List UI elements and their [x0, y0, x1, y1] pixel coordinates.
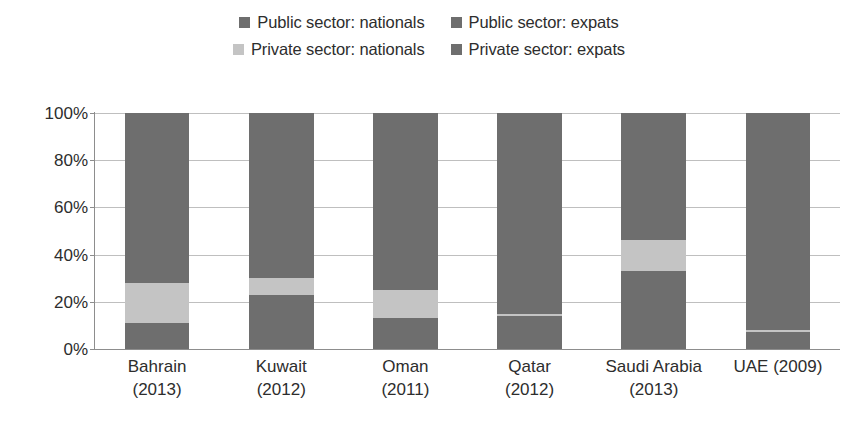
bar-segment[interactable]	[621, 113, 686, 240]
bar-group[interactable]	[373, 113, 438, 349]
y-tick-label: 100%	[45, 105, 88, 122]
bar-group[interactable]	[621, 113, 686, 349]
y-tick-label: 0%	[63, 341, 88, 358]
bar-stack	[373, 113, 438, 349]
bar-segment[interactable]	[125, 283, 190, 323]
y-tick-mark	[90, 349, 95, 350]
bar-segment[interactable]	[746, 113, 811, 330]
bar-stack	[249, 113, 314, 349]
bar-segment[interactable]	[497, 316, 562, 349]
bar-group[interactable]	[497, 113, 562, 349]
y-tick-label: 40%	[54, 246, 88, 263]
bar-stack	[746, 113, 811, 349]
bar-segment[interactable]	[125, 113, 190, 283]
bar-group[interactable]	[125, 113, 190, 349]
bar-segment[interactable]	[621, 240, 686, 271]
legend-item-private-expats[interactable]: Private sector: expats	[451, 41, 625, 57]
y-tick-label: 60%	[54, 199, 88, 216]
y-tick-label: 20%	[54, 293, 88, 310]
legend-item-public-nationals[interactable]: Public sector: nationals	[239, 14, 424, 30]
legend-label-private-expats: Private sector: expats	[469, 41, 625, 57]
legend-item-private-nationals[interactable]: Private sector: nationals	[233, 41, 425, 57]
legend-label-public-nationals: Public sector: nationals	[257, 14, 424, 30]
bar-segment[interactable]	[373, 290, 438, 318]
legend-label-private-nationals: Private sector: nationals	[251, 41, 425, 57]
x-tick-label: Bahrain(2013)	[95, 355, 219, 401]
x-tick-label: Qatar(2012)	[468, 355, 592, 401]
x-tick-label: Oman(2011)	[343, 355, 467, 401]
x-tick-label: UAE (2009)	[716, 355, 840, 378]
bar-group[interactable]	[746, 113, 811, 349]
bar-segment[interactable]	[746, 330, 811, 332]
legend-swatch-icon-public-nationals	[239, 17, 250, 28]
plot-area: 100%80%60%40%20%0% Bahrain(2013)Kuwait(2…	[0, 100, 858, 360]
legend-swatch-icon-public-expats	[451, 17, 462, 28]
legend-label-public-expats: Public sector: expats	[469, 14, 619, 30]
stacked-bar-chart: Public sector: nationals Public sector: …	[0, 0, 858, 430]
bar-segment[interactable]	[125, 323, 190, 349]
y-axis: 100%80%60%40%20%0%	[18, 100, 88, 350]
legend-row-2: Private sector: nationals Private sector…	[233, 41, 625, 57]
y-tick-label: 80%	[54, 152, 88, 169]
legend-swatch-icon-private-expats	[451, 44, 462, 55]
bar-segment[interactable]	[497, 314, 562, 316]
bar-segment[interactable]	[249, 295, 314, 349]
bar-stack	[621, 113, 686, 349]
bar-group[interactable]	[249, 113, 314, 349]
bar-segment[interactable]	[249, 113, 314, 278]
legend-swatch-icon-private-nationals	[233, 44, 244, 55]
x-tick-label: Kuwait(2012)	[219, 355, 343, 401]
axes-and-grid	[95, 113, 840, 349]
bars-layer	[95, 113, 840, 349]
x-axis: Bahrain(2013)Kuwait(2012)Oman(2011)Qatar…	[95, 355, 840, 425]
bar-segment[interactable]	[746, 332, 811, 349]
bar-segment[interactable]	[621, 271, 686, 349]
bar-stack	[497, 113, 562, 349]
bar-segment[interactable]	[249, 278, 314, 295]
gridline	[95, 349, 840, 350]
legend-row-1: Public sector: nationals Public sector: …	[239, 14, 618, 30]
x-tick-label: Saudi Arabia(2013)	[592, 355, 716, 401]
bar-segment[interactable]	[497, 113, 562, 314]
chart-legend: Public sector: nationals Public sector: …	[0, 14, 858, 57]
bar-segment[interactable]	[373, 318, 438, 349]
legend-item-public-expats[interactable]: Public sector: expats	[451, 14, 619, 30]
bar-stack	[125, 113, 190, 349]
bar-segment[interactable]	[373, 113, 438, 290]
